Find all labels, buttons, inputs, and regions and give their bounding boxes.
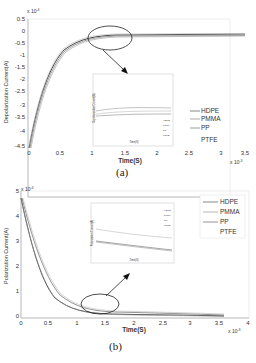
svg-text:PP: PP [201,124,210,131]
svg-text:-1: -1 [20,52,26,58]
chart-a: x 10-4 0.5 0 -0.5 -1 -1.5 -2 -2.5 -3 -3.… [3,8,250,197]
svg-text:1: 1 [75,320,79,326]
x-exponent-a: x 10-3 [230,159,243,165]
svg-text:PTFE: PTFE [201,136,218,143]
figure-clean: x 10-4 0.5 0 -0.5 -1 -1.5 -2 -2.5 -3 -3.… [0,0,256,363]
svg-text:1: 1 [90,150,94,156]
inset-x-label-a: Time(S) [129,140,138,144]
y-exponent-a: x 10-4 [27,8,40,14]
inset-b: Polarization Current(A) HDPE PMMA PP PTF… [90,203,174,263]
caption-b: (b) [109,340,122,353]
svg-text:0.5: 0.5 [56,150,65,156]
svg-text:-4: -4 [20,128,26,134]
svg-text:HDPE: HDPE [201,107,220,114]
x-label-b: Time(S) [122,326,146,334]
svg-text:3.5: 3.5 [215,320,224,326]
svg-text:PP: PP [220,218,229,225]
svg-text:1: 1 [16,288,20,294]
svg-text:PTFE: PTFE [164,224,171,227]
svg-text:PMMA: PMMA [163,124,171,127]
svg-text:HDPE: HDPE [220,198,239,205]
svg-text:-4.5: -4.5 [15,143,26,149]
svg-text:0: 0 [19,320,23,326]
x-ticks-a: 0 0.5 1 1.5 2 2.5 3 3.5 [27,150,250,156]
inset-x-label-b: Time(S) [129,258,138,262]
svg-text:3: 3 [188,320,192,326]
y-label-a: Depolarization Current(A) [3,61,9,124]
svg-text:PTFE: PTFE [220,228,237,235]
svg-text:0.5: 0.5 [44,320,53,326]
svg-text:PMMA: PMMA [201,115,221,122]
svg-text:4: 4 [246,320,250,326]
svg-text:-3.5: -3.5 [15,114,26,120]
svg-text:3.5: 3.5 [241,150,250,156]
svg-text:3: 3 [16,238,20,244]
inset-y-label-a: Depolarization Current(A) [92,93,96,123]
svg-text:0: 0 [22,28,26,34]
svg-text:-2: -2 [20,76,26,82]
svg-text:HDPE: HDPE [163,119,170,122]
inset-y-label-b: Polarization Current(A) [90,220,94,247]
y-label-b: Polarization Current(A) [3,228,9,284]
inset-frame-b [91,203,174,263]
svg-text:2.5: 2.5 [185,150,194,156]
legend-b: HDPE PMMA PP PTFE [200,195,245,238]
svg-text:PMMA: PMMA [164,214,172,217]
svg-text:PP: PP [163,129,167,132]
arrow-b [106,277,126,296]
legend-a: HDPE PMMA PP PTFE [190,107,221,143]
arrow-a [103,50,124,70]
svg-text:2: 2 [155,150,159,156]
svg-text:PTFE: PTFE [163,134,170,137]
svg-text:0: 0 [27,150,31,156]
y-ticks-a: 0.5 0 -0.5 -1 -1.5 -2 -2.5 -3 -3.5 -4 -4… [15,16,26,149]
svg-text:-1.5: -1.5 [15,64,26,70]
y-ticks-b: 5 4 3 2 1 0 [16,188,20,319]
svg-text:PP: PP [164,219,168,222]
svg-text:0: 0 [16,313,20,319]
svg-text:-0.5: -0.5 [15,40,26,46]
svg-text:2.5: 2.5 [159,320,168,326]
svg-text:2: 2 [16,263,20,269]
legend-labels-a: HDPE PMMA PP PTFE [201,107,221,143]
svg-text:3: 3 [219,150,223,156]
svg-text:1.5: 1.5 [101,320,110,326]
caption-a: (a) [116,166,129,179]
x-exponent-b: x 10-3 [228,328,241,334]
svg-text:4: 4 [16,213,20,219]
x-label-a: Time(S) [118,157,142,165]
chart-b: x 10-4 5 4 3 2 1 0 Polarization Current(… [3,186,250,353]
svg-text:0.5: 0.5 [17,16,26,22]
svg-text:1.5: 1.5 [121,150,130,156]
svg-text:HDPE: HDPE [164,209,171,212]
svg-text:-3: -3 [20,102,26,108]
svg-text:-2.5: -2.5 [15,88,26,94]
svg-text:PMMA: PMMA [220,208,240,215]
svg-text:5: 5 [16,188,20,194]
inset-a: Depolarization Current(A) HDPE PMMA PP P… [92,74,173,146]
